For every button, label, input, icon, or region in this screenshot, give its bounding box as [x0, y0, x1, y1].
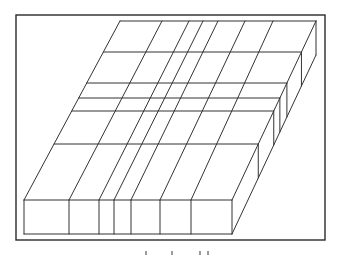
caption-mark: [207, 251, 209, 255]
caption-mark: [171, 251, 173, 255]
caption-marks: [145, 251, 209, 255]
slab-grid-diagram: [0, 0, 341, 257]
caption-mark: [145, 251, 147, 255]
slab: [24, 21, 316, 234]
caption-mark: [199, 251, 201, 255]
